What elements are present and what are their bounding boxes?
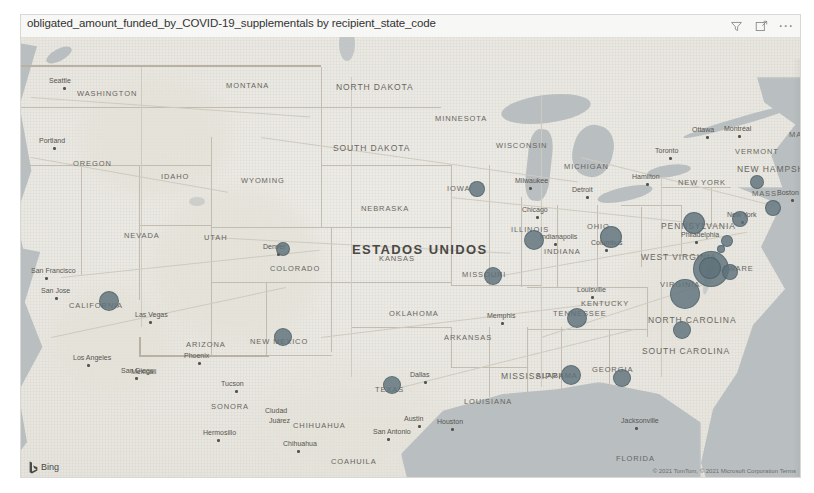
sea-label: Gulf of [471, 477, 492, 478]
state-border [139, 225, 211, 226]
city-dot [217, 439, 220, 442]
great-salt-lake [189, 197, 205, 206]
state-border [451, 285, 541, 286]
state-border [661, 187, 731, 188]
filter-icon[interactable] [728, 18, 744, 34]
city-dot [635, 427, 638, 430]
map-attribution: © 2021 TomTom, © 2021 Microsoft Corporat… [653, 468, 796, 474]
map-edge-shade [792, 59, 801, 478]
state-border [321, 107, 441, 108]
state-border [451, 165, 452, 285]
state-border [561, 327, 562, 393]
screenshot-root: obligated_amount_funded_by_COVID-19_supp… [0, 0, 814, 493]
bubble-new-mexico[interactable] [274, 328, 292, 346]
city-dot [591, 296, 594, 299]
city-dot [297, 450, 300, 453]
page-title: obligated_amount_funded_by_COVID-19_supp… [27, 17, 436, 29]
bubble-delaware[interactable] [722, 264, 738, 280]
map-visual[interactable]: obligated_amount_funded_by_COVID-19_supp… [20, 14, 801, 478]
state-border [451, 367, 527, 368]
bubble-new-hampshire[interactable] [750, 175, 764, 189]
bubble-massachusetts[interactable] [765, 200, 781, 216]
city-dot [554, 243, 557, 246]
state-border [451, 327, 452, 367]
state-border [681, 205, 682, 255]
bubble-district-of-columbia[interactable] [699, 257, 721, 279]
city-dot [87, 364, 90, 367]
state-border [211, 137, 212, 227]
city-dot [669, 157, 672, 160]
city-dot [646, 183, 649, 186]
city-dot [387, 438, 390, 441]
bubble-new-jersey-south[interactable] [717, 245, 725, 253]
state-border [331, 282, 332, 352]
road [661, 177, 662, 377]
city-dot [605, 249, 608, 252]
focus-mode-icon[interactable] [753, 18, 769, 34]
state-border [321, 165, 451, 166]
city-dot [586, 196, 589, 199]
state-border [527, 287, 647, 288]
bing-map-canvas[interactable]: WASHINGTONOREGONIDAHOMONTANANORTH DAKOTA… [21, 37, 801, 478]
state-border [527, 327, 528, 397]
bubble-iowa[interactable] [469, 181, 485, 197]
bubble-virginia[interactable] [670, 279, 700, 309]
city-dot [235, 390, 238, 393]
state-border [81, 165, 82, 275]
bubble-tennessee[interactable] [567, 308, 587, 328]
state-border [331, 227, 332, 283]
city-dot [45, 277, 48, 280]
city-dot [424, 381, 427, 384]
state-border [609, 329, 610, 389]
international-border [139, 355, 269, 357]
bing-label: Bing [41, 462, 59, 472]
visual-header: obligated_amount_funded_by_COVID-19_supp… [21, 15, 800, 37]
state-border [266, 355, 332, 356]
bubble-pennsylvania[interactable] [683, 212, 705, 234]
city-dot [418, 425, 421, 428]
state-border [557, 205, 558, 287]
city-dot [536, 216, 539, 219]
bubble-missouri[interactable] [484, 267, 502, 285]
bubble-new-york[interactable] [732, 211, 748, 227]
bubble-ohio[interactable] [600, 226, 622, 248]
city-dot [738, 135, 741, 138]
state-border [81, 165, 211, 166]
city-dot [501, 322, 504, 325]
city-dot [149, 321, 152, 324]
state-border [211, 227, 212, 357]
bubble-illinois[interactable] [524, 230, 544, 250]
bubble-texas[interactable] [383, 376, 401, 394]
state-border [139, 225, 140, 300]
more-options-icon[interactable]: ⋯ [778, 18, 794, 34]
bubble-colorado[interactable] [276, 242, 290, 256]
road [351, 77, 352, 377]
road [141, 67, 142, 327]
international-border [139, 337, 141, 355]
visual-header-icons: ⋯ [728, 18, 794, 34]
city-dot [529, 187, 532, 190]
state-border [211, 282, 331, 283]
bing-mark-icon [29, 460, 38, 473]
state-border [489, 327, 490, 397]
bubble-north-carolina[interactable] [673, 321, 691, 339]
bubble-california[interactable] [99, 291, 119, 311]
international-border [21, 65, 321, 67]
state-border [331, 282, 451, 283]
bubble-alabama[interactable] [561, 365, 581, 385]
bubble-georgia[interactable] [613, 369, 631, 387]
state-border [266, 282, 267, 357]
city-dot [695, 241, 698, 244]
city-dot [55, 297, 58, 300]
city-dot [53, 147, 56, 150]
state-border [139, 165, 140, 225]
city-dot [198, 362, 201, 365]
state-border [521, 197, 522, 287]
city-dot [135, 377, 138, 380]
city-dot [706, 136, 709, 139]
bing-logo[interactable]: Bing [29, 460, 59, 473]
state-border [321, 67, 322, 227]
state-border [621, 205, 681, 206]
state-border [711, 187, 712, 227]
city-dot [63, 87, 66, 90]
